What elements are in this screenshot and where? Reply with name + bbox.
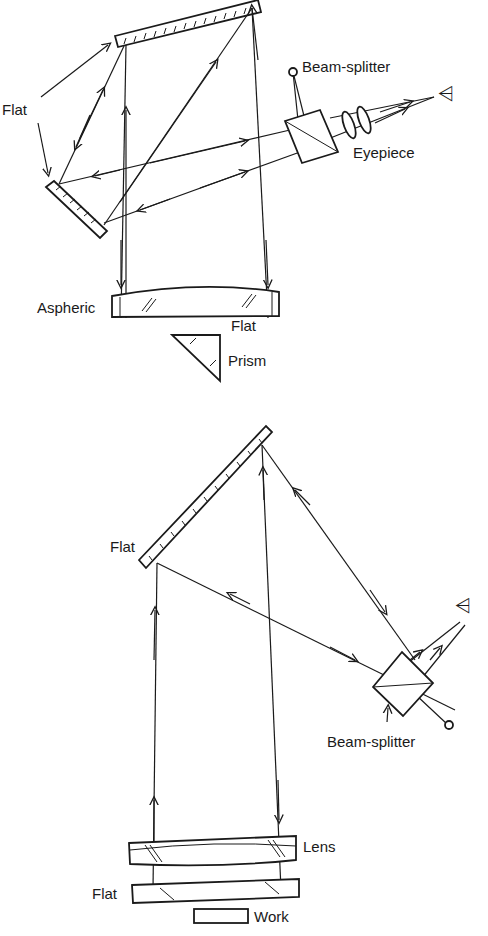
bottom-flat-mirror — [139, 426, 272, 568]
top-rays — [59, 8, 434, 318]
label-flat-lower-top: Flat — [231, 317, 257, 334]
eye-icon: ⩤ — [438, 81, 454, 105]
label-flat-lower-bottom: Flat — [92, 885, 118, 902]
bottom-beam-splitter — [373, 652, 453, 729]
top-flat-mirror — [115, 0, 261, 47]
label-beam-splitter-top: Beam-splitter — [302, 58, 390, 75]
label-flat-top: Flat — [2, 101, 28, 118]
left-flat-mirror — [46, 181, 107, 238]
aspheric-plate — [112, 287, 279, 317]
top-setup: ⩤ Flat Beam-splitter Eyepiece Aspheric F… — [2, 0, 454, 381]
label-flat-bottom: Flat — [110, 538, 136, 555]
bottom-setup: ⩤ Flat Beam-splitter Lens Flat Work — [92, 426, 471, 925]
label-work: Work — [254, 908, 289, 925]
prism — [172, 335, 220, 381]
label-lens: Lens — [303, 838, 336, 855]
optical-diagram: ⩤ Flat Beam-splitter Eyepiece Aspheric F… — [0, 0, 488, 936]
label-eyepiece: Eyepiece — [353, 144, 415, 161]
label-aspheric: Aspheric — [37, 299, 96, 316]
label-prism: Prism — [228, 352, 266, 369]
top-beam-splitter — [285, 68, 338, 163]
bottom-flat — [132, 879, 299, 903]
eye-icon-bottom: ⩤ — [455, 593, 471, 617]
label-beam-splitter-bottom: Beam-splitter — [327, 733, 415, 750]
work-piece — [194, 909, 248, 923]
